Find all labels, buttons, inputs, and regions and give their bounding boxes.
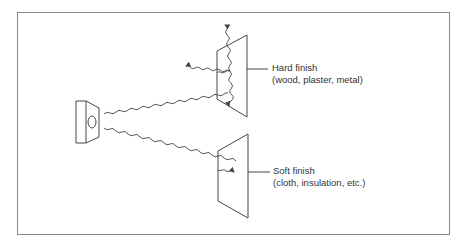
sound-reflection-diagram [0,0,468,242]
hard-surface-panel [217,35,268,117]
reflected-wave-left [186,66,230,72]
loudspeaker-icon [76,101,99,143]
reflected-wave-up [225,25,231,71]
hard-finish-title: Hard finish [272,62,363,74]
reflected-wave-down [229,71,234,106]
incident-wave-soft [104,128,236,161]
soft-finish-title: Soft finish [273,165,365,177]
hard-finish-materials: (wood, plaster, metal) [272,74,363,86]
incident-wave-hard [104,93,228,114]
soft-finish-materials: (cloth, insulation, etc.) [273,177,365,189]
soft-finish-label: Soft finish (cloth, insulation, etc.) [273,165,365,189]
soft-surface-panel [218,134,270,218]
absorbed-wave-arrow [218,170,234,172]
hard-finish-label: Hard finish (wood, plaster, metal) [272,62,363,86]
